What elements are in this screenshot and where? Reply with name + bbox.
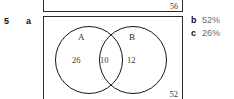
venn-count-intersection: 10 bbox=[100, 55, 109, 65]
answer-row-c: c 26% bbox=[191, 28, 234, 41]
venn-set-b-label: B bbox=[129, 32, 135, 42]
venn-set-a-label: A bbox=[78, 32, 85, 42]
answer-row-b: b 52% bbox=[191, 15, 234, 28]
answer-value-b: 52% bbox=[202, 15, 220, 25]
answer-letter-c: c bbox=[191, 28, 202, 38]
answer-letter-b: b bbox=[191, 15, 202, 25]
venn-count-outside: 52 bbox=[170, 89, 179, 99]
venn-count-only-b: 12 bbox=[127, 55, 136, 65]
venn-count-only-a: 26 bbox=[72, 55, 81, 65]
question-number: 5 bbox=[4, 16, 9, 26]
previous-question-diagram: 56 bbox=[43, 0, 183, 12]
answers-column: b 52% c 26% bbox=[191, 15, 234, 41]
answer-value-c: 26% bbox=[202, 28, 220, 38]
question-part-a-letter: a bbox=[26, 16, 31, 26]
venn-diagram: A B 26 10 12 52 bbox=[43, 16, 183, 99]
previous-outside-count: 56 bbox=[170, 2, 178, 11]
